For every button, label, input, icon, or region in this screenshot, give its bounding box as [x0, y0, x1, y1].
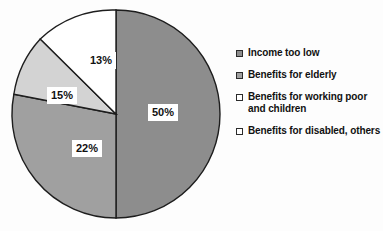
pie-label-income-too-low: 50% [148, 104, 178, 121]
legend-item-benefits-elderly[interactable]: Benefits for elderly [236, 69, 383, 81]
pie-label-benefits-elderly: 22% [72, 140, 102, 157]
pie-label-benefits-disabled: 13% [86, 52, 116, 69]
pie-chart-figure: 50% 22% 15% 13% Income too low Benefits … [0, 0, 383, 231]
pie-plot-area: 50% 22% 15% 13% [0, 0, 232, 231]
legend-item-benefits-working-poor[interactable]: Benefits for working poor and children [236, 91, 383, 115]
legend-swatch-icon-income-too-low [236, 50, 243, 57]
pie-svg [0, 0, 232, 231]
legend-label-benefits-working-poor: Benefits for working poor and children [248, 91, 383, 115]
chart-legend: Income too low Benefits for elderly Bene… [236, 47, 383, 147]
legend-swatch-icon-benefits-elderly [236, 72, 243, 79]
legend-swatch-icon-benefits-disabled [236, 128, 243, 135]
legend-swatch-icon-benefits-working-poor [236, 94, 243, 101]
legend-item-income-too-low[interactable]: Income too low [236, 47, 383, 59]
pie-label-benefits-working-poor: 15% [47, 87, 77, 104]
legend-label-benefits-elderly: Benefits for elderly [248, 69, 337, 81]
legend-label-income-too-low: Income too low [248, 47, 319, 59]
legend-item-benefits-disabled[interactable]: Benefits for disabled, others [236, 125, 383, 137]
legend-label-benefits-disabled: Benefits for disabled, others [248, 125, 380, 137]
